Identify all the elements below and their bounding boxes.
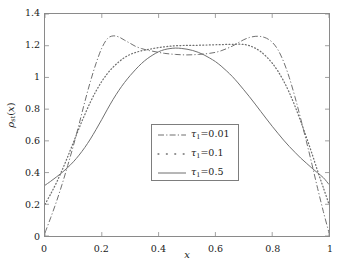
y-tick-label: 0.6 <box>8 136 40 146</box>
figure-canvas: 00.20.40.60.811.21.4 00.20.40.60.81 ρst(… <box>0 0 341 269</box>
legend-item-0: τ1=0.01 <box>152 125 238 144</box>
y-tick-label: 1 <box>8 72 40 82</box>
legend-box: τ1=0.01τ1=0.1τ1=0.5 <box>151 124 239 181</box>
x-tick-label: 0 <box>41 244 47 254</box>
legend-line-sample-dashdot <box>157 129 187 141</box>
legend-item-label-1: τ1=0.1 <box>191 147 223 160</box>
x-tick-label: 0.2 <box>94 244 109 254</box>
legend-tau-value: =0.5 <box>200 166 223 177</box>
y-axis-label-argument: x <box>5 106 16 112</box>
y-tick-label: 0 <box>8 232 40 242</box>
x-tick-label: 0.8 <box>265 244 280 254</box>
x-tick-label: 0.6 <box>208 244 223 254</box>
y-tick-label: 0.2 <box>8 200 40 210</box>
legend-tau-value: =0.01 <box>200 128 229 139</box>
legend-item-2: τ1=0.5 <box>152 163 238 182</box>
x-axis-label: x <box>184 249 190 260</box>
legend-line-sample-solid <box>157 167 187 179</box>
y-tick-label: 1.2 <box>8 40 40 50</box>
legend-tau-value: =0.1 <box>200 147 223 158</box>
legend-item-label-2: τ1=0.5 <box>191 166 223 179</box>
legend-item-label-0: τ1=0.01 <box>191 128 230 141</box>
x-tick-label: 1 <box>327 244 333 254</box>
y-tick-label: 0.4 <box>8 168 40 178</box>
y-axis-label-subscript: st <box>9 116 17 122</box>
legend-item-1: τ1=0.1 <box>152 144 238 163</box>
y-tick-label: 1.4 <box>8 8 40 18</box>
x-tick-label: 0.4 <box>151 244 166 254</box>
legend-line-sample-dotted <box>157 148 187 160</box>
y-axis-label: ρst(x) <box>5 102 18 127</box>
y-axis-label-symbol: ρ <box>5 122 16 128</box>
